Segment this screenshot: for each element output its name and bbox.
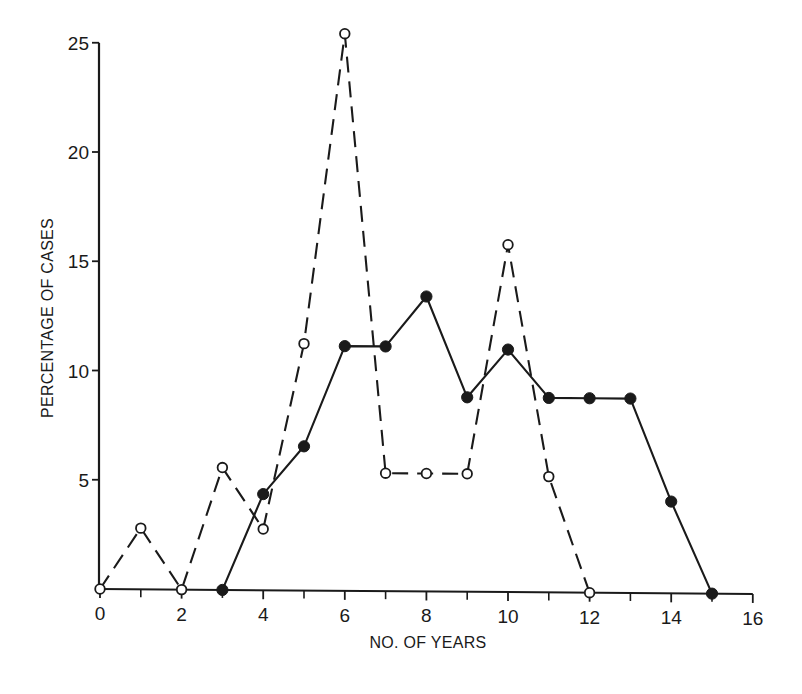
- open-circle-marker: [462, 469, 472, 479]
- x-axis-label: NO. OF YEARS: [369, 634, 486, 651]
- filled-circle-marker: [543, 392, 554, 403]
- filled-circle-marker: [502, 344, 513, 355]
- x-tick-label: 8: [421, 605, 432, 626]
- open-circle-marker: [422, 469, 432, 479]
- line-chart: 510152025 0246810121416 NO. OF YEARS PER…: [0, 0, 802, 694]
- series-open: [95, 29, 594, 598]
- open-circle-marker: [218, 463, 228, 473]
- open-circle-marker: [136, 523, 146, 533]
- solid-line: [222, 297, 712, 594]
- series-filled: [217, 291, 718, 599]
- x-axis: 0246810121416: [95, 589, 764, 629]
- open-circle-marker: [299, 339, 309, 349]
- y-tick-label: 20: [68, 142, 89, 163]
- x-tick-label: 12: [579, 607, 600, 628]
- y-axis: 510152025: [68, 33, 99, 589]
- filled-circle-marker: [462, 392, 473, 403]
- filled-circle-marker: [666, 496, 677, 507]
- filled-circle-marker: [298, 441, 309, 452]
- dashed-line: [100, 34, 590, 593]
- x-tick-label: 2: [176, 604, 187, 625]
- x-tick-label: 0: [95, 603, 106, 624]
- open-circle-marker: [381, 468, 391, 478]
- open-circle-marker: [544, 472, 554, 482]
- filled-circle-marker: [258, 489, 269, 500]
- open-circle-marker: [503, 240, 513, 250]
- filled-circle-marker: [339, 341, 350, 352]
- y-tick-label: 10: [68, 361, 89, 382]
- open-circle-marker: [177, 585, 187, 595]
- filled-circle-marker: [421, 291, 432, 302]
- open-circle-marker: [95, 584, 105, 594]
- x-tick-label: 10: [497, 606, 518, 627]
- x-tick-label: 14: [661, 607, 683, 628]
- open-circle-marker: [340, 29, 350, 39]
- x-tick-label: 4: [258, 604, 269, 625]
- y-axis-label: PERCENTAGE OF CASES: [39, 218, 56, 418]
- open-circle-marker: [585, 588, 595, 598]
- y-tick-label: 15: [68, 251, 89, 272]
- open-circle-marker: [258, 524, 268, 534]
- filled-circle-marker: [380, 341, 391, 352]
- x-tick-label: 6: [340, 605, 351, 626]
- filled-circle-marker: [584, 393, 595, 404]
- y-tick-label: 25: [68, 33, 89, 54]
- series-layer: [95, 29, 717, 599]
- y-tick-label: 5: [78, 470, 89, 491]
- x-tick-label: 16: [742, 608, 763, 629]
- filled-circle-marker: [217, 584, 228, 595]
- filled-circle-marker: [706, 588, 717, 599]
- filled-circle-marker: [625, 393, 636, 404]
